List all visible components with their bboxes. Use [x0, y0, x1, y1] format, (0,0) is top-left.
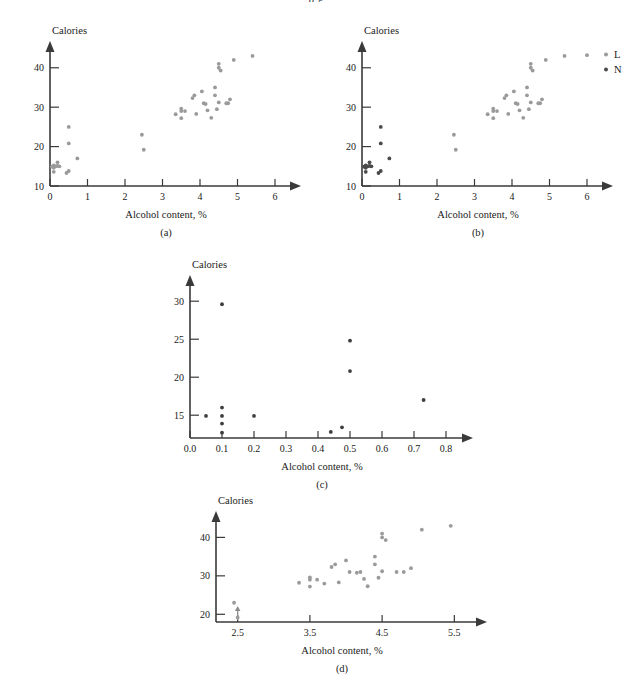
- data-point: [308, 585, 312, 589]
- legend-label-l: L: [614, 49, 620, 60]
- data-point: [232, 58, 236, 62]
- data-point: [315, 578, 319, 582]
- data-point: [362, 165, 366, 169]
- data-point: [531, 69, 535, 73]
- y-tick-label: 20: [346, 141, 356, 152]
- x-tick-label: 5: [547, 191, 552, 202]
- x-tick-label: 4: [510, 191, 515, 202]
- x-axis-arrow: [476, 618, 487, 627]
- y-tick-label: 20: [174, 372, 184, 383]
- y-axis-title: Calories: [364, 25, 399, 36]
- data-point: [387, 157, 391, 161]
- data-point: [337, 580, 341, 584]
- data-point: [226, 101, 230, 105]
- scatter-plot-c: 0.00.10.20.30.40.50.60.70.815202530Alcoh…: [150, 268, 490, 496]
- x-tick-label: 3: [160, 191, 165, 202]
- data-point: [521, 116, 525, 120]
- y-tick-label: 30: [174, 296, 184, 307]
- data-point: [329, 430, 333, 434]
- x-axis-arrow: [462, 434, 473, 443]
- data-point: [140, 133, 144, 137]
- data-point: [527, 107, 531, 111]
- data-point: [544, 58, 548, 62]
- data-point: [373, 555, 377, 559]
- series-l: [452, 53, 589, 151]
- x-tick-label: 6: [273, 191, 278, 202]
- data-point: [75, 157, 79, 161]
- data-point: [183, 109, 187, 113]
- x-origin-marker-arrow: [235, 606, 241, 611]
- x-tick-label: 3: [472, 191, 477, 202]
- data-point: [217, 101, 221, 105]
- data-point: [204, 102, 208, 106]
- panel-caption: (a): [160, 227, 172, 239]
- series-alcoholic-beers: [232, 524, 452, 619]
- data-point: [204, 414, 208, 418]
- data-point: [359, 570, 363, 574]
- data-point: [377, 576, 381, 580]
- x-tick-label: 5: [235, 191, 240, 202]
- data-point: [330, 565, 334, 569]
- y-tick-label: 40: [200, 532, 210, 543]
- data-point: [563, 54, 567, 58]
- y-tick-label: 15: [174, 410, 184, 421]
- x-axis-title: Alcohol content, %: [437, 209, 519, 220]
- data-point: [220, 302, 224, 306]
- panel-a: 012345610203040Alcohol content, %Calorie…: [18, 26, 314, 238]
- data-point: [52, 170, 56, 174]
- data-point: [454, 148, 458, 152]
- data-point: [529, 62, 533, 66]
- x-tick-label: 4.5: [376, 627, 389, 638]
- data-point: [491, 116, 495, 120]
- data-point: [213, 86, 217, 90]
- data-point: [232, 601, 236, 605]
- data-point: [491, 109, 495, 113]
- data-point: [252, 414, 256, 418]
- x-tick-label: 2.5: [231, 627, 244, 638]
- x-tick-label: 2: [435, 191, 440, 202]
- data-point: [538, 101, 542, 105]
- y-tick-label: 20: [200, 609, 210, 620]
- x-tick-label: 0.4: [312, 443, 325, 454]
- data-point: [179, 109, 183, 113]
- x-tick-label: 1: [85, 191, 90, 202]
- data-point: [355, 571, 359, 575]
- y-tick-label: 10: [34, 181, 44, 192]
- x-tick-label: 0.8: [440, 443, 453, 454]
- y-tick-label: 10: [346, 181, 356, 192]
- data-point: [504, 93, 508, 97]
- x-tick-label: 6: [585, 191, 590, 202]
- y-axis-arrow: [186, 275, 195, 286]
- x-axis-title: Alcohol content, %: [281, 461, 363, 472]
- data-point: [379, 125, 383, 129]
- legend-marker-l: [604, 53, 608, 57]
- data-point: [420, 528, 424, 532]
- data-point: [220, 431, 224, 435]
- data-point: [395, 570, 399, 574]
- y-tick-label: 30: [346, 102, 356, 113]
- data-point: [518, 108, 522, 112]
- data-point: [362, 577, 366, 581]
- data-point: [369, 164, 373, 168]
- panel-b: 012345610203040Alcohol content, %Calorie…: [330, 26, 626, 238]
- data-point: [525, 86, 529, 90]
- x-tick-label: 0.6: [376, 443, 389, 454]
- y-tick-label: 40: [346, 62, 356, 73]
- x-axis-title: Alcohol content, %: [125, 209, 207, 220]
- data-point: [206, 108, 210, 112]
- data-point: [67, 169, 71, 173]
- data-point: [529, 101, 533, 105]
- x-tick-label: 5.5: [448, 627, 461, 638]
- data-point: [297, 581, 301, 585]
- panel-b-plot-area: 012345610203040Alcohol content, %Calorie…: [346, 25, 622, 239]
- x-tick-label: 0.5: [344, 443, 357, 454]
- x-tick-label: 1: [397, 191, 402, 202]
- data-point: [333, 562, 337, 566]
- legend-label-n: N: [614, 64, 622, 75]
- data-point: [213, 93, 217, 97]
- y-axis-title: Calories: [218, 495, 253, 506]
- top-partial-text: p g: [0, 0, 632, 2]
- data-point: [380, 532, 384, 536]
- y-tick-label: 30: [34, 102, 44, 113]
- data-point: [217, 62, 221, 66]
